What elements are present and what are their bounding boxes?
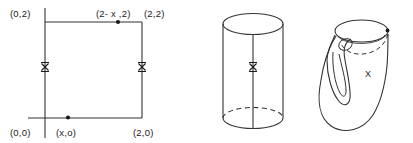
point-bottom-marked <box>66 115 70 119</box>
klein-surface-point-label: X <box>365 69 371 79</box>
square-diagram: (0,2) (2- x ,2) (2,2) (0,0) (x,o) (2,0) <box>0 0 205 143</box>
klein-neck-inner-loop <box>333 52 346 96</box>
label-top-mid: (2- x ,2) <box>96 8 131 19</box>
point-top-marked <box>116 20 120 24</box>
klein-hidden-neck-path <box>341 34 388 54</box>
label-bottom-left: (0,0) <box>10 127 31 138</box>
square-panel: (0,2) (2- x ,2) (2,2) (0,0) (x,o) (2,0) <box>0 0 205 143</box>
klein-bottle-diagram: X <box>305 0 413 143</box>
label-bottom-right: (2,0) <box>133 127 154 138</box>
klein-panel: X <box>305 0 413 143</box>
klein-rim-marked-point <box>386 29 390 33</box>
label-bottom-mid: (x,o) <box>56 127 76 138</box>
cylinder-top-rim <box>223 14 283 35</box>
figure-canvas: (0,2) (2- x ,2) (2,2) (0,0) (x,o) (2,0) <box>0 0 413 143</box>
label-top-left: (0,2) <box>10 8 31 19</box>
cylinder-diagram <box>205 0 305 143</box>
klein-mouth-rim <box>335 20 388 42</box>
cylinder-panel <box>205 0 305 143</box>
label-top-right: (2,2) <box>144 8 165 19</box>
